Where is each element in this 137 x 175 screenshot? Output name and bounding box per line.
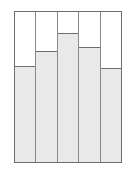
bar-4[interactable] xyxy=(79,47,99,163)
bar-column-4[interactable]: 77 xyxy=(79,12,100,162)
plot-area: 64 74 86 77 63 xyxy=(14,11,122,163)
bar-chart: 64 74 86 77 63 xyxy=(0,0,137,175)
bar-1[interactable] xyxy=(15,66,35,162)
bar-2[interactable] xyxy=(36,51,56,162)
bar-column-1[interactable]: 64 xyxy=(15,12,36,162)
bar-column-2[interactable]: 74 xyxy=(36,12,57,162)
bar-column-3[interactable]: 86 xyxy=(58,12,79,162)
bar-5[interactable] xyxy=(101,68,121,163)
bar-3[interactable] xyxy=(58,33,78,162)
bar-column-5[interactable]: 63 xyxy=(101,12,121,162)
